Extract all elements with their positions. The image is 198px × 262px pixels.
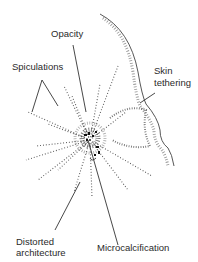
label-architecture: architecture	[16, 247, 66, 258]
label-microcalcification: Microcalcification	[97, 242, 169, 253]
label-distorted: Distorted	[16, 236, 54, 247]
distorted-leader	[55, 182, 80, 230]
label-tethering: tethering	[154, 77, 191, 88]
microcalcification-leader	[88, 140, 118, 245]
breast-lesion-diagram	[0, 0, 198, 262]
spiculations-leader	[32, 80, 58, 112]
skin-outline	[100, 14, 174, 166]
label-spiculations: Spiculations	[12, 61, 63, 72]
label-opacity: Opacity	[51, 28, 83, 39]
label-skin: Skin	[154, 65, 172, 76]
